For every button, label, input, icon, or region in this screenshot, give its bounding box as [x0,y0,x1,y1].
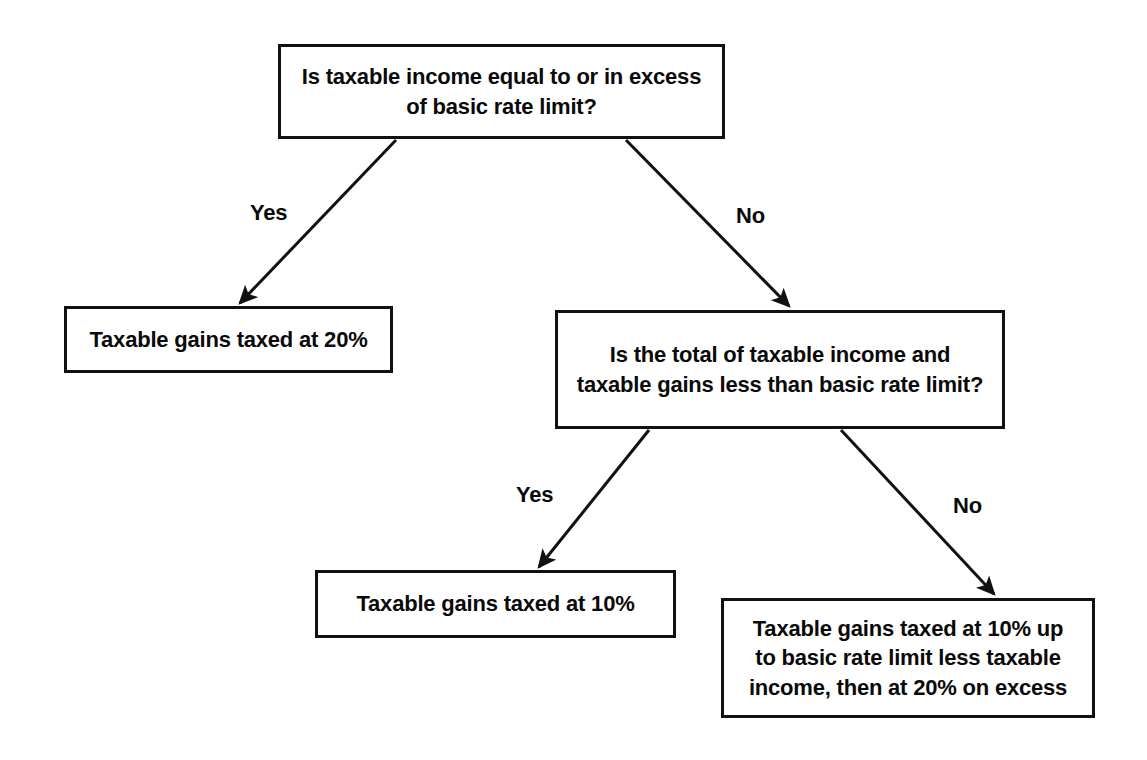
outcome-node-mixed-rate: Taxable gains taxed at 10% up to basic r… [721,598,1095,718]
decision-node-root-label: Is taxable income equal to or in excess … [291,62,712,120]
flowchart-canvas: Is taxable income equal to or in excess … [0,0,1147,760]
edge-label-root-yes: Yes [250,200,287,226]
outcome-node-mixed-rate-label: Taxable gains taxed at 10% up to basic r… [734,614,1082,701]
outcome-node-taxed20-label: Taxable gains taxed at 20% [77,325,380,354]
decision-node-root: Is taxable income equal to or in excess … [278,44,725,139]
edge-label-root-no: No [736,203,765,229]
decision-node-total: Is the total of taxable income and taxab… [555,310,1005,429]
decision-node-total-label: Is the total of taxable income and taxab… [568,340,992,398]
edge-label-decision2-yes: Yes [516,482,553,508]
outcome-node-taxed10-label: Taxable gains taxed at 10% [328,589,663,618]
outcome-node-taxed20: Taxable gains taxed at 20% [64,306,393,373]
outcome-node-taxed10: Taxable gains taxed at 10% [315,570,676,638]
edge-label-decision2-no: No [953,493,982,519]
connector-decision2-yes [539,430,649,567]
